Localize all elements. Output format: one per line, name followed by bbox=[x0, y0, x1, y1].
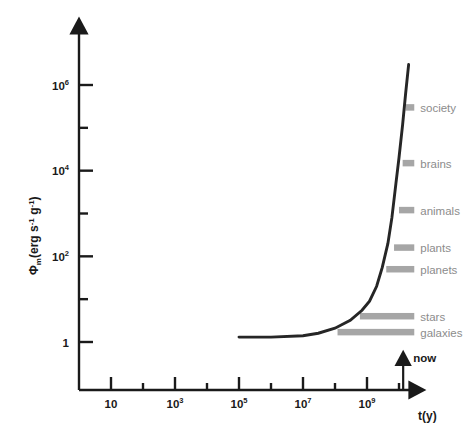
svg-text:Φm(erg s-1 g-1): Φm(erg s-1 g-1) bbox=[27, 196, 43, 275]
event-bar-planets bbox=[386, 266, 414, 273]
x-axis-tick-label: 10 bbox=[105, 398, 118, 410]
event-bars-group bbox=[338, 104, 415, 335]
event-bar-galaxies bbox=[338, 329, 415, 336]
x-axis-tick-label: 109 bbox=[359, 396, 376, 410]
x-axis-tick-label: 103 bbox=[167, 396, 184, 410]
tick-label-exponent: 2 bbox=[65, 249, 69, 258]
tick-label-mantissa: 10 bbox=[52, 165, 65, 177]
tick-label-mantissa: 10 bbox=[52, 80, 65, 92]
event-label-galaxies: galaxies bbox=[420, 327, 462, 339]
event-bar-society bbox=[406, 104, 415, 111]
event-bar-animals bbox=[399, 207, 414, 214]
tick-label-exponent: 9 bbox=[371, 396, 375, 405]
y-axis-title-subscript: m bbox=[34, 258, 43, 265]
tick-label-mantissa: 10 bbox=[295, 398, 308, 410]
x-axis-title: t(y) bbox=[418, 409, 437, 423]
y-axis-tick-label: 1 bbox=[63, 337, 70, 349]
tick-label-mantissa: 1 bbox=[63, 337, 70, 349]
event-label-stars: stars bbox=[420, 311, 445, 323]
event-label-animals: animals bbox=[420, 205, 460, 217]
y-axis-tick-label: 106 bbox=[52, 78, 69, 92]
event-labels-group: societybrainsanimalsplantsplanetsstarsga… bbox=[420, 102, 462, 339]
y-axis-title: Φm(erg s-1 g-1) bbox=[27, 196, 43, 275]
y-axis-tick-label: 102 bbox=[52, 249, 69, 263]
tick-label-exponent: 3 bbox=[179, 396, 183, 405]
now-label: now bbox=[413, 352, 436, 364]
now-marker-group: now bbox=[403, 352, 436, 390]
tick-label-mantissa: 10 bbox=[359, 398, 372, 410]
tick-label-mantissa: 10 bbox=[52, 251, 65, 263]
tick-label-mantissa: 10 bbox=[231, 398, 244, 410]
event-label-society: society bbox=[420, 102, 456, 114]
y-axis-title-unit-open: (erg s bbox=[27, 225, 41, 258]
axis-ticks-group bbox=[78, 85, 399, 391]
x-axis-title-text: t(y) bbox=[418, 409, 437, 423]
event-label-planets: planets bbox=[420, 264, 457, 276]
event-bar-stars bbox=[360, 313, 414, 320]
event-label-plants: plants bbox=[420, 242, 451, 254]
y-axis-title-g: g bbox=[27, 208, 41, 219]
tick-label-exponent: 5 bbox=[243, 396, 247, 405]
y-axis-title-phi: Φ bbox=[27, 265, 41, 275]
curve-group bbox=[239, 65, 409, 338]
tick-label-exponent: 4 bbox=[65, 163, 70, 172]
event-bar-plants bbox=[394, 244, 414, 251]
free-energy-rate-density-curve bbox=[239, 65, 409, 338]
y-axis-tick-label: 104 bbox=[52, 163, 70, 177]
y-axis-title-close-paren: ) bbox=[27, 196, 41, 200]
chart-figure: 106104102110103105107109 societybrainsan… bbox=[0, 0, 476, 435]
x-axis-tick-label: 107 bbox=[295, 396, 312, 410]
event-label-brains: brains bbox=[420, 158, 452, 170]
free-energy-rate-density-chart: 106104102110103105107109 societybrainsan… bbox=[0, 0, 476, 435]
tick-label-mantissa: 10 bbox=[105, 398, 118, 410]
tick-label-mantissa: 10 bbox=[167, 398, 180, 410]
event-bar-brains bbox=[403, 160, 415, 167]
x-axis-tick-label: 105 bbox=[231, 396, 248, 410]
tick-label-exponent: 6 bbox=[65, 78, 69, 87]
tick-label-exponent: 7 bbox=[307, 396, 311, 405]
axis-tick-labels-group: 106104102110103105107109 bbox=[52, 78, 375, 411]
